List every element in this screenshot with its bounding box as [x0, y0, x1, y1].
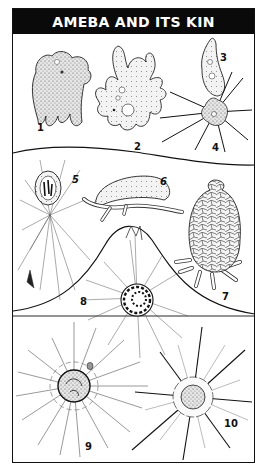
plate-artwork: [0, 0, 261, 470]
figure-8-foraminifer-spiral: [82, 226, 188, 358]
figure-1-ameba: [32, 52, 91, 126]
figure-label-6: 6: [160, 176, 167, 187]
figure-5-foraminifer: [18, 160, 90, 300]
figure-label-8: 8: [80, 296, 87, 307]
figure-label-7: 7: [222, 291, 229, 302]
figure-6-arcella: [84, 176, 182, 220]
figure-3-ameba: [202, 38, 225, 96]
figure-label-3: 3: [220, 52, 227, 63]
figure-label-1: 1: [37, 122, 44, 133]
figure-label-4: 4: [212, 142, 219, 153]
figure-label-2: 2: [134, 141, 141, 152]
figure-7-difflugia: [176, 180, 240, 288]
figure-label-5: 5: [72, 174, 79, 185]
figure-label-10: 10: [224, 418, 238, 429]
figure-label-9: 9: [85, 441, 92, 452]
figure-2-ameba: [96, 46, 166, 130]
figure-9-radiolarian: [16, 322, 148, 457]
figure-10-radiolarian-star: [132, 327, 252, 460]
